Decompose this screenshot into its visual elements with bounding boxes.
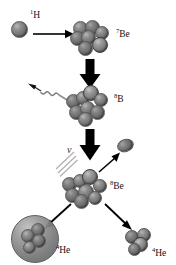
label-beryllium-8: 8Be bbox=[110, 182, 124, 192]
nucleon-sphere bbox=[74, 194, 89, 209]
nucleon-sphere bbox=[128, 243, 141, 256]
node-boron-8 bbox=[64, 85, 108, 127]
node-proton-1h bbox=[11, 21, 28, 38]
label-boron-8: 8B bbox=[114, 95, 124, 105]
nucleon-sphere bbox=[23, 241, 36, 254]
label-boron-8-element: B bbox=[117, 94, 123, 104]
nucleon-sphere bbox=[78, 41, 93, 56]
label-hydrogen-1: 1H bbox=[30, 11, 40, 21]
label-beryllium-8-element: Be bbox=[113, 181, 124, 191]
node-beryllium-7 bbox=[70, 20, 110, 58]
label-helium-4-right: 4He bbox=[152, 249, 166, 259]
label-helium-4-right-element: He bbox=[155, 248, 166, 258]
nucleon-sphere bbox=[11, 21, 28, 38]
nuclear-reaction-diagram: 1H 7Be 8B bbox=[0, 0, 176, 265]
capture-arrow bbox=[33, 28, 75, 40]
label-hydrogen-1-element: H bbox=[33, 10, 40, 20]
label-helium-4-left: 4He bbox=[56, 246, 70, 256]
label-beryllium-7-element: Be bbox=[119, 29, 130, 39]
label-helium-4-left-element: He bbox=[59, 245, 70, 255]
node-helium-4-left bbox=[11, 215, 61, 265]
nucleon-sphere bbox=[88, 191, 102, 205]
nucleon-sphere bbox=[92, 37, 108, 53]
nucleon-sphere bbox=[78, 112, 93, 127]
label-beryllium-7: 7Be bbox=[116, 30, 130, 40]
